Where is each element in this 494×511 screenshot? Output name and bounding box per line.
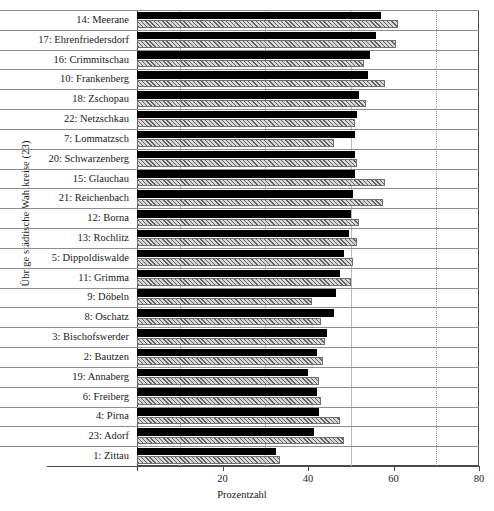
x-tick-label: 20 (203, 473, 243, 484)
bar-row (137, 228, 479, 248)
bar-black (137, 428, 314, 436)
x-axis: 20406080 (137, 466, 479, 467)
bar-black (137, 210, 351, 218)
bar-black (137, 190, 353, 198)
bar-row (137, 89, 479, 109)
bar-hatched (137, 258, 353, 266)
bar-black (137, 309, 334, 317)
category-label: 5: Dippoldiswalde (52, 253, 129, 264)
bar-row (137, 446, 479, 466)
x-tick-label: 40 (288, 473, 328, 484)
x-tick-60 (394, 466, 395, 471)
bar-black (137, 111, 357, 119)
bar-hatched (137, 417, 340, 425)
category-label: 13: Rochlitz (77, 233, 129, 244)
bar-hatched (137, 437, 344, 445)
category-label: 6: Freiberg (83, 392, 129, 403)
category-label: 4: Pirna (96, 411, 129, 422)
bar-row (137, 149, 479, 169)
bar-row (137, 169, 479, 189)
bar-black (137, 448, 276, 456)
category-label: 1: Zittau (93, 451, 129, 462)
x-axis-title-text: Prozentzahl (217, 489, 267, 500)
bar-row (137, 129, 479, 149)
x-tick-label: 80 (459, 473, 494, 484)
bar-row (137, 50, 479, 70)
x-tick-0 (137, 466, 138, 471)
bar-row (137, 407, 479, 427)
category-label: 17: Ehrenfriedersdorf (38, 35, 129, 46)
category-label: 23: Adorf (88, 431, 129, 442)
bar-hatched (137, 298, 312, 306)
bar-hatched (137, 456, 280, 464)
bar-hatched (137, 377, 319, 385)
bar-row (137, 426, 479, 446)
bar-row (137, 188, 479, 208)
category-label: 3: Bischofswerder (52, 332, 129, 343)
x-tick-40 (308, 466, 309, 471)
category-label: 9: Döbeln (87, 292, 129, 303)
category-label: 18: Zschopau (72, 94, 129, 105)
bar-row (137, 327, 479, 347)
x-tick-20 (223, 466, 224, 471)
bar-row (137, 347, 479, 367)
category-label: 20: Schwarzenberg (48, 154, 129, 165)
bar-hatched (137, 60, 364, 68)
bar-hatched (137, 40, 396, 48)
bar-black (137, 289, 336, 297)
bar-row (137, 387, 479, 407)
category-label: 15: Glauchau (73, 174, 129, 185)
bar-black (137, 270, 340, 278)
category-label: 12: Borna (87, 213, 129, 224)
bar-hatched (137, 139, 334, 147)
bar-hatched (137, 357, 323, 365)
bar-black (137, 170, 355, 178)
bar-black (137, 91, 359, 99)
bar-hatched (137, 100, 366, 108)
bar-hatched (137, 338, 325, 346)
bar-black (137, 250, 344, 258)
category-label: 21: Reichenbach (59, 193, 129, 204)
category-label: 22: Netzschkau (64, 114, 129, 125)
category-label: 2: Bautzen (84, 352, 129, 363)
category-label: 16: Crimmitschau (53, 55, 129, 66)
bar-black (137, 329, 327, 337)
bar-row (137, 288, 479, 308)
bar-chart: Übrige städtische Wahlkreise (23) 14: Me… (0, 0, 494, 511)
bar-row (137, 248, 479, 268)
bar-hatched (137, 119, 355, 127)
bar-row (137, 367, 479, 387)
x-tick-label: 60 (374, 473, 414, 484)
bar-hatched (137, 397, 321, 405)
bar-hatched (137, 199, 383, 207)
category-label: 8: Oschatz (84, 312, 129, 323)
category-label: 10: Frankenberg (60, 74, 129, 85)
bar-row (137, 307, 479, 327)
bar-hatched (137, 219, 359, 227)
bar-black (137, 71, 368, 79)
x-tick-80 (479, 466, 480, 471)
category-label: 19: Annaberg (72, 372, 129, 383)
bar-row (137, 268, 479, 288)
category-label: 7: Lommatzsch (64, 134, 129, 145)
bar-black (137, 32, 376, 40)
bar-row (137, 109, 479, 129)
bar-hatched (137, 179, 385, 187)
bar-hatched (137, 238, 357, 246)
bar-hatched (137, 278, 351, 286)
bar-hatched (137, 20, 398, 28)
category-label: 11: Grimma (78, 273, 129, 284)
bar-black (137, 388, 317, 396)
x-axis-line (47, 466, 479, 467)
bar-black (137, 151, 355, 159)
bar-black (137, 51, 370, 59)
bar-black (137, 230, 349, 238)
bar-black (137, 12, 381, 20)
bar-black (137, 131, 355, 139)
bar-black (137, 349, 317, 357)
bar-hatched (137, 318, 321, 326)
bar-row (137, 208, 479, 228)
category-axis-labels: 14: Meerane17: Ehrenfriedersdorf16: Crim… (0, 10, 133, 466)
plot-area (137, 10, 479, 466)
bar-row (137, 10, 479, 30)
